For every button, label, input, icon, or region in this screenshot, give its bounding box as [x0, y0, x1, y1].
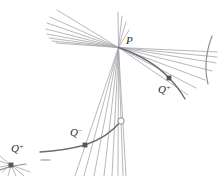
figure-background [0, 0, 218, 176]
figure-canvas: PQ+Q−Q+ [0, 0, 218, 176]
marker-point-q-plus-left [9, 163, 13, 167]
marker-point-q-minus [83, 143, 87, 147]
label-p: P [125, 34, 133, 46]
pencil-up-line-0 [118, 12, 119, 48]
marker-point-open-circle [118, 118, 124, 124]
pencil-down-line-5 [118, 48, 119, 177]
geometric-figure: PQ+Q−Q+ [0, 0, 218, 176]
marker-point-q-plus-right [167, 76, 171, 80]
